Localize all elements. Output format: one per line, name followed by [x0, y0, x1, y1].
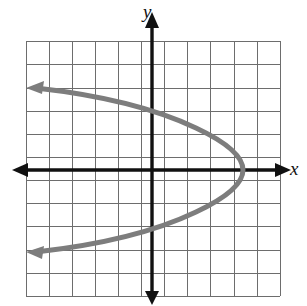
parabola-upper-arrowhead — [26, 81, 44, 94]
parabola-lower-arrowhead — [26, 246, 44, 259]
x-axis-right-arrowhead — [275, 163, 291, 177]
x-axis-left-arrowhead — [12, 163, 28, 177]
graph-figure: y x — [0, 0, 307, 306]
y-axis-bottom-arrowhead — [145, 291, 159, 305]
coordinate-plane-svg — [0, 0, 307, 306]
y-axis — [145, 12, 159, 305]
x-axis-label: x — [290, 159, 298, 178]
y-axis-label: y — [143, 2, 151, 21]
